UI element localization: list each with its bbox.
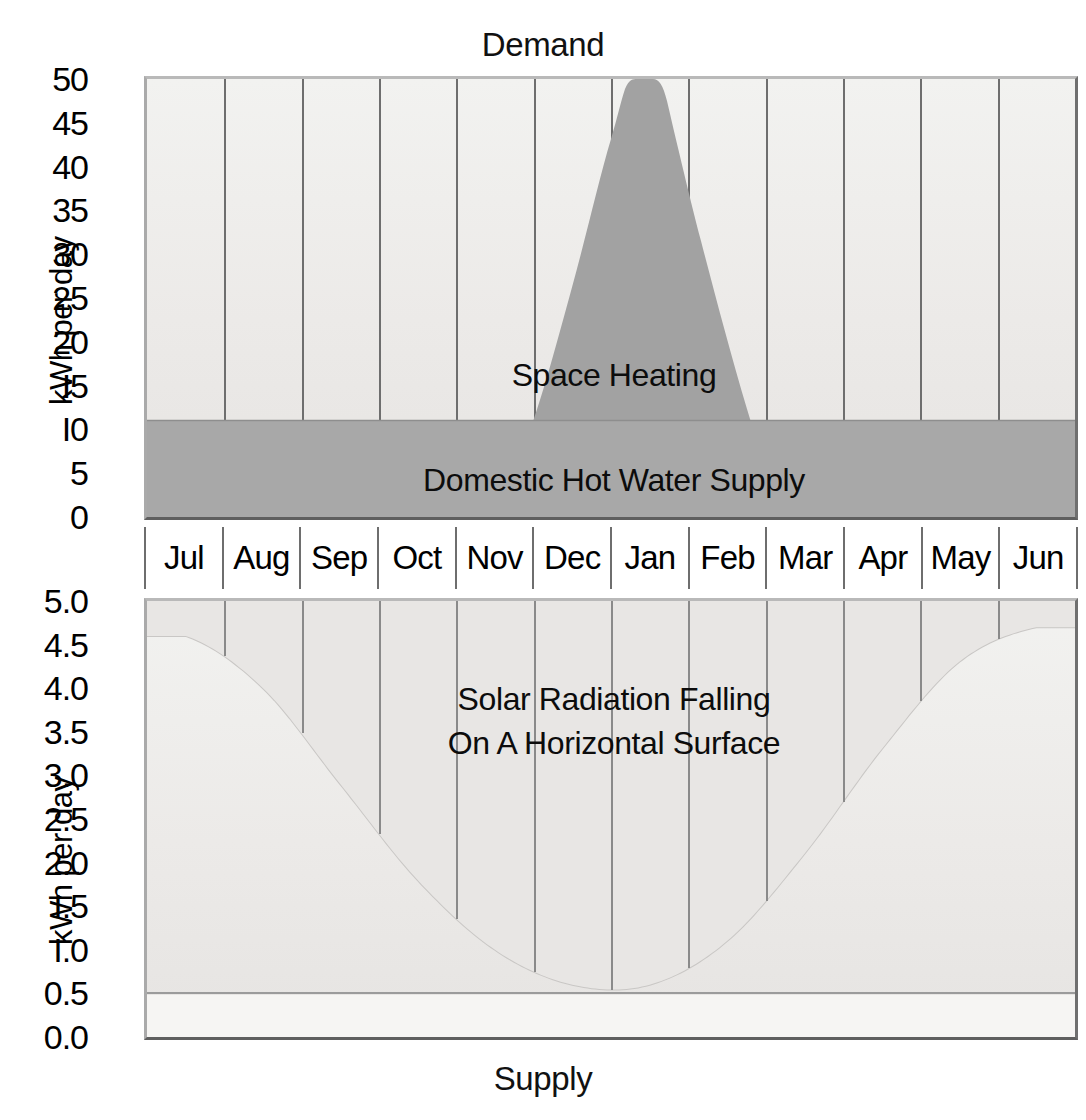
month-cell: Aug: [224, 527, 302, 589]
month-cell: Sep: [301, 527, 379, 589]
month-cell: Apr: [845, 527, 923, 589]
month-cell: Feb: [690, 527, 768, 589]
month-cell: Mar: [767, 527, 845, 589]
demand-y-tick: 25: [52, 281, 88, 315]
supply-y-tick: 2.5: [44, 802, 88, 836]
solar-label-line-2: On A Horizontal Surface: [147, 721, 1078, 765]
supply-y-tick: 2.0: [44, 846, 88, 880]
supply-gridline: [611, 601, 613, 990]
supply-gridline: [688, 601, 690, 968]
demand-series-overlay: [147, 79, 1075, 517]
demand-plot-area: Space Heating Domestic Hot Water Supply: [144, 76, 1078, 520]
demand-y-tick: 20: [52, 325, 88, 359]
supply-gridline: [224, 601, 226, 656]
supply-gridline: [998, 601, 1000, 639]
supply-y-tick: I.5: [53, 889, 88, 923]
solar-label-line-1: Solar Radiation Falling: [147, 677, 1078, 721]
month-cell: May: [923, 527, 1001, 589]
month-cell: Jul: [144, 527, 224, 589]
demand-y-tick: I5: [62, 369, 88, 403]
solar-radiation-label: Solar Radiation Falling On A Horizontal …: [147, 677, 1078, 765]
supply-gridline: [534, 601, 536, 972]
month-axis-strip: JulAugSepOctNovDecJanFebMarAprMayJun: [144, 527, 1078, 589]
demand-y-tick: 40: [52, 150, 88, 184]
supply-y-tick: 0.5: [44, 976, 88, 1010]
supply-y-tick: 0.0: [44, 1020, 88, 1054]
demand-y-tick: 0: [70, 500, 88, 534]
supply-gridlines: [147, 601, 1075, 1037]
month-cell: Jan: [612, 527, 690, 589]
space-heating-label: Space Heating: [147, 357, 1078, 394]
month-cell: Dec: [534, 527, 612, 589]
supply-y-tick: 4.0: [44, 671, 88, 705]
chart-page: Demand kWh per day 50454035302520I5I050 …: [0, 0, 1086, 1120]
domestic-hot-water-label: Domestic Hot Water Supply: [147, 462, 1078, 499]
month-cell: Jun: [1000, 527, 1078, 589]
supply-y-tick: 3.5: [44, 715, 88, 749]
month-cell: Nov: [457, 527, 535, 589]
demand-y-tick: 30: [52, 237, 88, 271]
supply-y-tick: 5.0: [44, 584, 88, 618]
supply-chart-title: Supply: [0, 1060, 1086, 1098]
demand-y-tick: 5: [70, 456, 88, 490]
supply-plot-area: Solar Radiation Falling On A Horizontal …: [144, 598, 1078, 1040]
month-cell: Oct: [379, 527, 457, 589]
supply-y-tick: 4.5: [44, 628, 88, 662]
demand-y-tick: 50: [52, 62, 88, 96]
demand-chart-title: Demand: [0, 26, 1086, 64]
demand-y-tick: 45: [52, 106, 88, 140]
demand-y-tick: 35: [52, 193, 88, 227]
demand-y-tick: I0: [62, 412, 88, 446]
supply-y-tick: I.0: [53, 933, 88, 967]
supply-y-tick: 3.0: [44, 758, 88, 792]
